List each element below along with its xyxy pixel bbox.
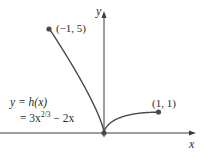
point-neg1-5 (46, 26, 51, 31)
x-axis-label: x (189, 138, 194, 150)
function-label-line1: y = h(x) (10, 97, 47, 109)
function-formula-suffix: − 2x (50, 112, 74, 124)
y-axis-label: y (96, 5, 101, 17)
y-axis-arrow-icon (102, 11, 107, 18)
point-label-neg1-5: (−1, 5) (56, 23, 86, 34)
function-formula-prefix: = 3x (20, 112, 41, 124)
point-1-1 (156, 109, 161, 114)
point-label-1-1: (1, 1) (152, 98, 176, 109)
function-graph (0, 0, 206, 157)
function-label-text: y = h(x) (10, 96, 47, 108)
point-origin (101, 130, 106, 135)
function-label-line2: = 3x2/3 − 2x (20, 113, 74, 125)
x-axis-arrow-icon (189, 131, 196, 136)
